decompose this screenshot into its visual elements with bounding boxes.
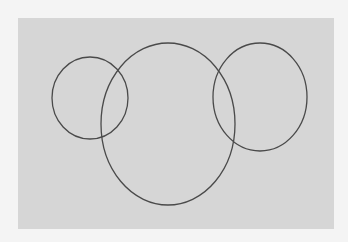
- right-circle: [213, 43, 307, 151]
- left-circle: [52, 57, 128, 139]
- circles-diagram: [0, 0, 348, 242]
- middle-ellipse: [101, 43, 235, 205]
